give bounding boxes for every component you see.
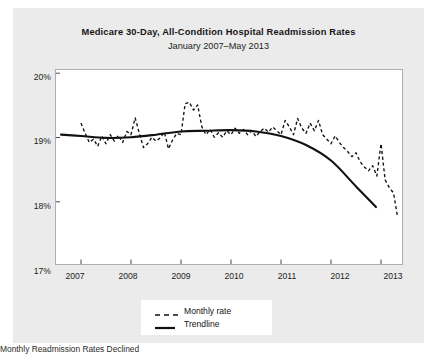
y-tick-label-17: 17% <box>17 267 51 276</box>
x-tick-label-2008: 2008 <box>111 271 145 281</box>
y-axis-ticks <box>56 73 60 264</box>
x-axis-ticks <box>81 260 381 265</box>
figure-caption: Monthly Readmission Rates Declined <box>0 345 139 354</box>
x-tick-label-2013: 2013 <box>376 271 410 281</box>
legend-item-monthly-rate: Monthly rate <box>155 304 272 317</box>
y-axis-labels: 20% 19% 18% 17% <box>13 69 51 269</box>
x-axis-labels: 2007 2008 2009 2010 2011 2012 2013 <box>55 271 405 285</box>
chart-legend: Monthly rate Trendline <box>141 300 272 335</box>
x-tick-label-2012: 2012 <box>323 271 357 281</box>
figure-caption-strip: Monthly Readmission Rates Declined <box>0 345 435 356</box>
x-tick-label-2010: 2010 <box>217 271 251 281</box>
chart-figure-panel: Medicare 30-Day, All-Condition Hospital … <box>13 8 424 343</box>
solid-line-swatch <box>155 319 178 329</box>
series-trendline <box>61 130 376 207</box>
x-tick-label-2009: 2009 <box>164 271 198 281</box>
dashed-line-swatch <box>155 306 178 316</box>
chart-plot-svg <box>56 70 402 264</box>
y-tick-label-20: 20% <box>17 73 51 82</box>
y-tick-label-18: 18% <box>17 202 51 211</box>
x-tick-label-2011: 2011 <box>270 271 304 281</box>
chart-subtitle: January 2007–May 2013 <box>13 39 424 53</box>
page-title: Medicare 30-Day, All-Condition Hospital … <box>13 26 424 39</box>
x-tick-label-2007: 2007 <box>58 271 92 281</box>
y-tick-label-19: 19% <box>17 137 51 146</box>
legend-label-monthly-rate: Monthly rate <box>184 306 231 316</box>
legend-label-trendline: Trendline <box>184 319 220 329</box>
legend-item-trendline: Trendline <box>155 317 272 330</box>
series-monthly-rate <box>81 102 398 217</box>
title-block: Medicare 30-Day, All-Condition Hospital … <box>13 26 424 53</box>
plot-area <box>55 69 403 265</box>
